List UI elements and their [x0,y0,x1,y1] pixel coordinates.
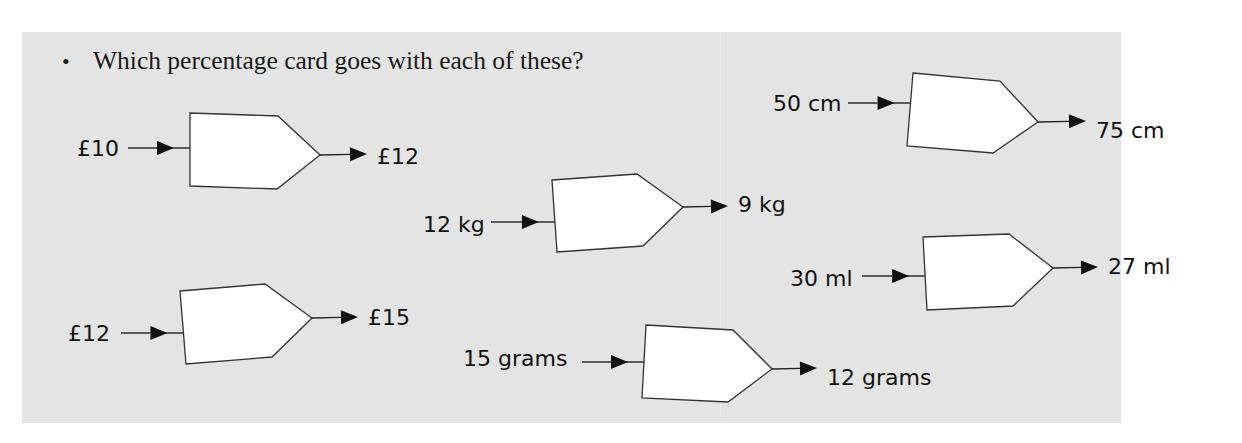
input-value-label: £12 [68,321,110,346]
function-machine-6: 15 grams12 grams [463,325,931,402]
arrowhead-icon [611,355,628,369]
output-arrow-line [312,317,341,318]
output-arrow-line [772,368,800,369]
output-arrow-line [320,154,350,155]
percentage-card-slot[interactable] [552,174,683,252]
function-machine-5: £12£15 [68,284,410,364]
percentage-card-slot[interactable] [190,113,320,189]
function-machine-2: 12 kg9 kg [423,174,786,252]
arrowhead-icon [800,361,817,375]
input-value-label: £10 [77,136,119,161]
output-value-label: 9 kg [738,192,786,217]
arrowhead-icon [1069,114,1086,128]
arrowhead-icon [522,215,539,229]
arrowhead-icon [350,147,367,161]
arrowhead-icon [341,310,358,324]
function-machine-diagram: £10£1212 kg9 kg50 cm75 cm30 ml27 ml£12£1… [0,0,1242,443]
percentage-card-slot[interactable] [642,325,772,402]
arrowhead-icon [878,96,895,110]
arrowhead-icon [711,199,728,213]
function-machine-3: 50 cm75 cm [773,73,1165,153]
output-arrow-line [683,206,711,207]
input-value-label: 30 ml [790,266,853,291]
percentage-card-slot[interactable] [907,73,1038,153]
arrowhead-icon [1081,260,1098,274]
output-value-label: 27 ml [1108,254,1171,279]
output-value-label: £15 [368,305,410,330]
output-arrow-line [1053,267,1081,268]
function-machine-1: £10£12 [77,113,419,189]
percentage-card-slot[interactable] [923,234,1053,310]
input-value-label: 12 kg [423,212,485,237]
output-value-label: 12 grams [827,365,931,390]
function-machine-4: 30 ml27 ml [790,234,1171,310]
arrowhead-icon [157,141,174,155]
arrowhead-icon [150,326,167,340]
arrowhead-icon [892,269,909,283]
percentage-card-slot[interactable] [180,284,312,364]
output-value-label: 75 cm [1096,118,1165,143]
input-value-label: 50 cm [773,91,842,116]
output-value-label: £12 [377,144,419,169]
output-arrow-line [1038,121,1069,122]
input-value-label: 15 grams [463,346,567,371]
